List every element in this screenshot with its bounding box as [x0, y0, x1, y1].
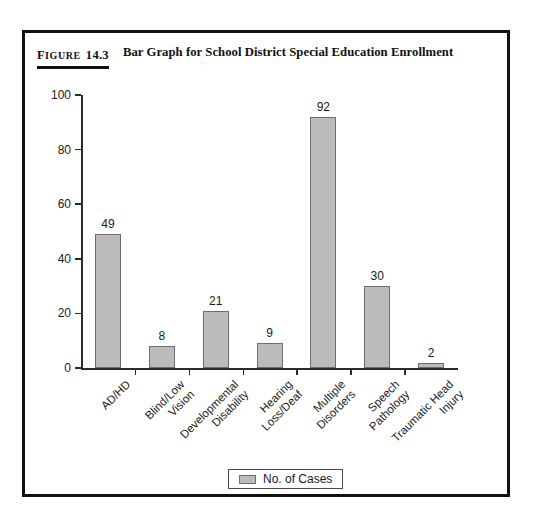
bar-value-label: 49	[78, 218, 138, 230]
y-axis-tick-label: 80	[27, 144, 71, 156]
y-axis-tick-label: 20	[27, 307, 71, 319]
y-axis-tick-label: 0	[27, 362, 71, 374]
bar-value-label: 2	[401, 347, 461, 359]
legend-swatch-icon	[239, 475, 256, 484]
bar	[203, 311, 229, 368]
bar	[364, 286, 390, 368]
chart-plot-area: 020406080100 49821992302 AD/HDBlind/Low …	[25, 33, 507, 494]
bar	[310, 117, 336, 368]
y-axis-tick	[75, 203, 81, 205]
legend-label: No. of Cases	[263, 473, 332, 485]
x-axis-tick	[189, 369, 191, 375]
y-axis-tick-labels: 020406080100	[25, 33, 71, 494]
y-axis-tick-label: 60	[27, 198, 71, 210]
bar	[257, 343, 283, 368]
y-axis-tick	[75, 313, 81, 315]
y-axis-tick	[75, 149, 81, 151]
y-axis-tick	[75, 258, 81, 260]
x-axis-tick	[350, 369, 352, 375]
bar	[149, 346, 175, 368]
y-axis-tick-label: 40	[27, 253, 71, 265]
scan-artifact-text	[130, 1, 510, 7]
x-axis-line	[81, 368, 458, 370]
bar-value-label: 21	[186, 295, 246, 307]
figure-frame: FIGURE14.3 Bar Graph for School District…	[22, 30, 510, 497]
y-axis-line	[81, 95, 83, 369]
bar-value-label: 92	[293, 101, 353, 113]
x-axis-tick	[135, 369, 137, 375]
bar-value-label: 30	[347, 270, 407, 282]
bar	[418, 363, 444, 368]
y-axis-tick-label: 100	[27, 89, 71, 101]
x-axis-tick	[404, 369, 406, 375]
bar-value-label: 8	[132, 330, 192, 342]
y-axis-tick	[75, 367, 81, 369]
x-axis-tick	[243, 369, 245, 375]
bar	[95, 234, 121, 368]
chart-legend: No. of Cases	[228, 469, 343, 489]
y-axis-tick	[75, 94, 81, 96]
bar-value-label: 9	[240, 327, 300, 339]
x-axis-tick	[296, 369, 298, 375]
